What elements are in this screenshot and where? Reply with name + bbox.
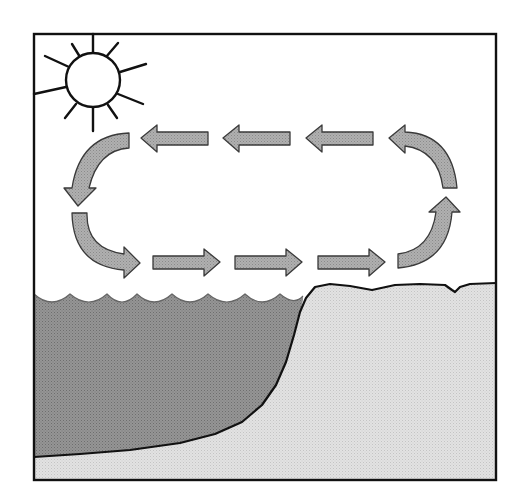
water-cycle-diagram: Water cycle — [0, 0, 520, 499]
